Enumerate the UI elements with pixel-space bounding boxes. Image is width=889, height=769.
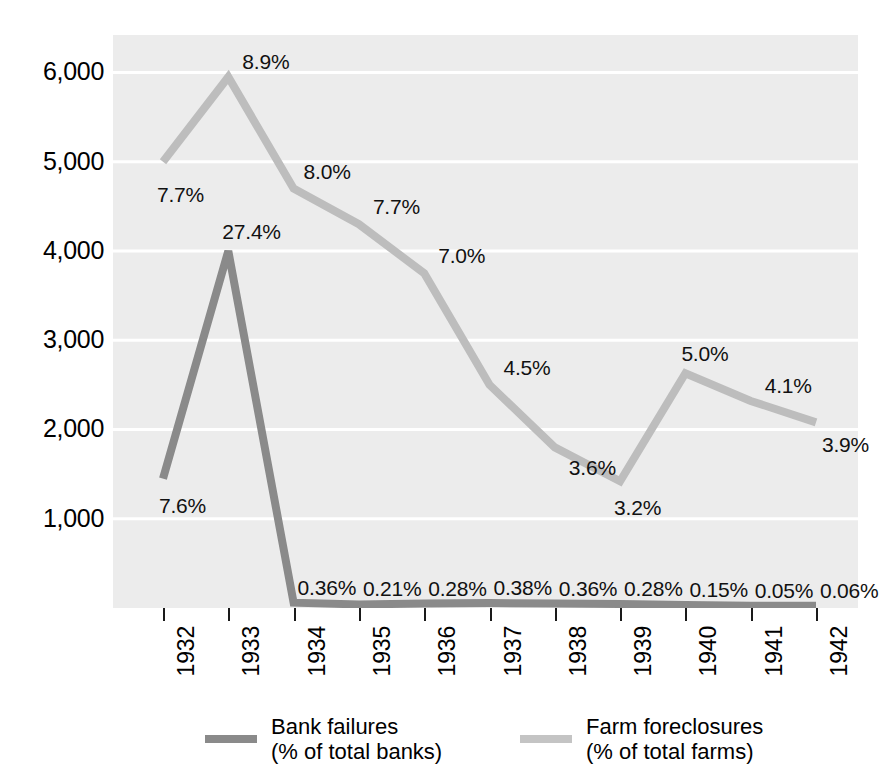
y-axis-tick-label: 3,000 (4, 327, 104, 352)
x-axis-tick (620, 608, 622, 621)
data-point-label: 7.7% (157, 184, 204, 205)
x-axis-tick-label: 1942 (828, 626, 851, 676)
data-point-label: 27.4% (222, 221, 281, 242)
chart-legend: Bank failures (% of total banks)Farm for… (0, 714, 889, 769)
x-axis-tick-label: 1939 (632, 626, 655, 676)
line-chart: 1,0002,0003,0004,0005,0006,000 7.6%27.4%… (0, 0, 889, 769)
x-axis-tick (490, 608, 492, 621)
data-point-label: 5.0% (681, 343, 728, 364)
x-axis-tick (228, 608, 230, 621)
data-point-label: 0.21% (363, 578, 422, 599)
data-point-label: 3.9% (822, 434, 869, 455)
legend-swatch-icon (520, 735, 572, 743)
y-axis-tick-label: 6,000 (4, 59, 104, 84)
x-axis-tick-label: 1937 (502, 626, 525, 676)
legend-item[interactable]: Bank failures (% of total banks) (205, 714, 442, 764)
x-axis-tick-label: 1941 (763, 626, 786, 676)
data-point-label: 0.28% (428, 578, 487, 599)
y-axis-tick-label: 1,000 (4, 506, 104, 531)
x-axis-tick-label: 1933 (240, 626, 263, 676)
x-axis-tick-label: 1938 (567, 626, 590, 676)
data-point-label: 3.2% (614, 497, 661, 518)
legend-item[interactable]: Farm foreclosures (% of total farms) (520, 714, 763, 764)
legend-swatch-icon (205, 735, 257, 743)
data-point-label: 0.38% (494, 577, 553, 598)
data-point-label: 0.05% (755, 580, 814, 601)
x-axis-tick (294, 608, 296, 621)
data-point-label: 7.6% (159, 495, 206, 516)
x-axis-tick-label: 1932 (175, 626, 198, 676)
x-axis-tick (555, 608, 557, 621)
legend-label: Bank failures (% of total banks) (271, 714, 442, 764)
x-axis-tick-label: 1934 (306, 626, 329, 676)
data-point-label: 4.1% (765, 375, 812, 396)
plot-svg (113, 35, 858, 608)
y-axis: 1,0002,0003,0004,0005,0006,000 (0, 0, 104, 620)
x-axis-tick (816, 608, 818, 621)
x-axis-tick-label: 1936 (436, 626, 459, 676)
x-axis-tick-label: 1940 (697, 626, 720, 676)
data-point-label: 7.0% (438, 245, 485, 266)
data-point-label: 7.7% (373, 196, 420, 217)
x-axis: 1932193319341935193619371938193919401941… (113, 608, 858, 708)
x-axis-tick-label: 1935 (371, 626, 394, 676)
data-point-label: 0.06% (820, 580, 879, 601)
plot-area: 7.6%27.4%0.36%0.21%0.28%0.38%0.36%0.28%0… (113, 35, 858, 608)
data-point-label: 3.6% (569, 457, 616, 478)
data-point-label: 4.5% (504, 357, 551, 378)
y-axis-tick-label: 5,000 (4, 149, 104, 174)
x-axis-tick (424, 608, 426, 621)
y-axis-tick-label: 4,000 (4, 238, 104, 263)
data-point-label: 8.9% (242, 51, 289, 72)
y-axis-tick-label: 2,000 (4, 416, 104, 441)
data-point-label: 0.36% (298, 577, 357, 598)
x-axis-tick (685, 608, 687, 621)
data-point-label: 0.15% (689, 579, 748, 600)
data-point-label: 8.0% (304, 161, 351, 182)
data-point-label: 0.36% (559, 578, 618, 599)
data-point-label: 0.28% (624, 578, 683, 599)
x-axis-tick (359, 608, 361, 621)
x-axis-tick (751, 608, 753, 621)
x-axis-tick (163, 608, 165, 621)
legend-label: Farm foreclosures (% of total farms) (586, 714, 763, 764)
